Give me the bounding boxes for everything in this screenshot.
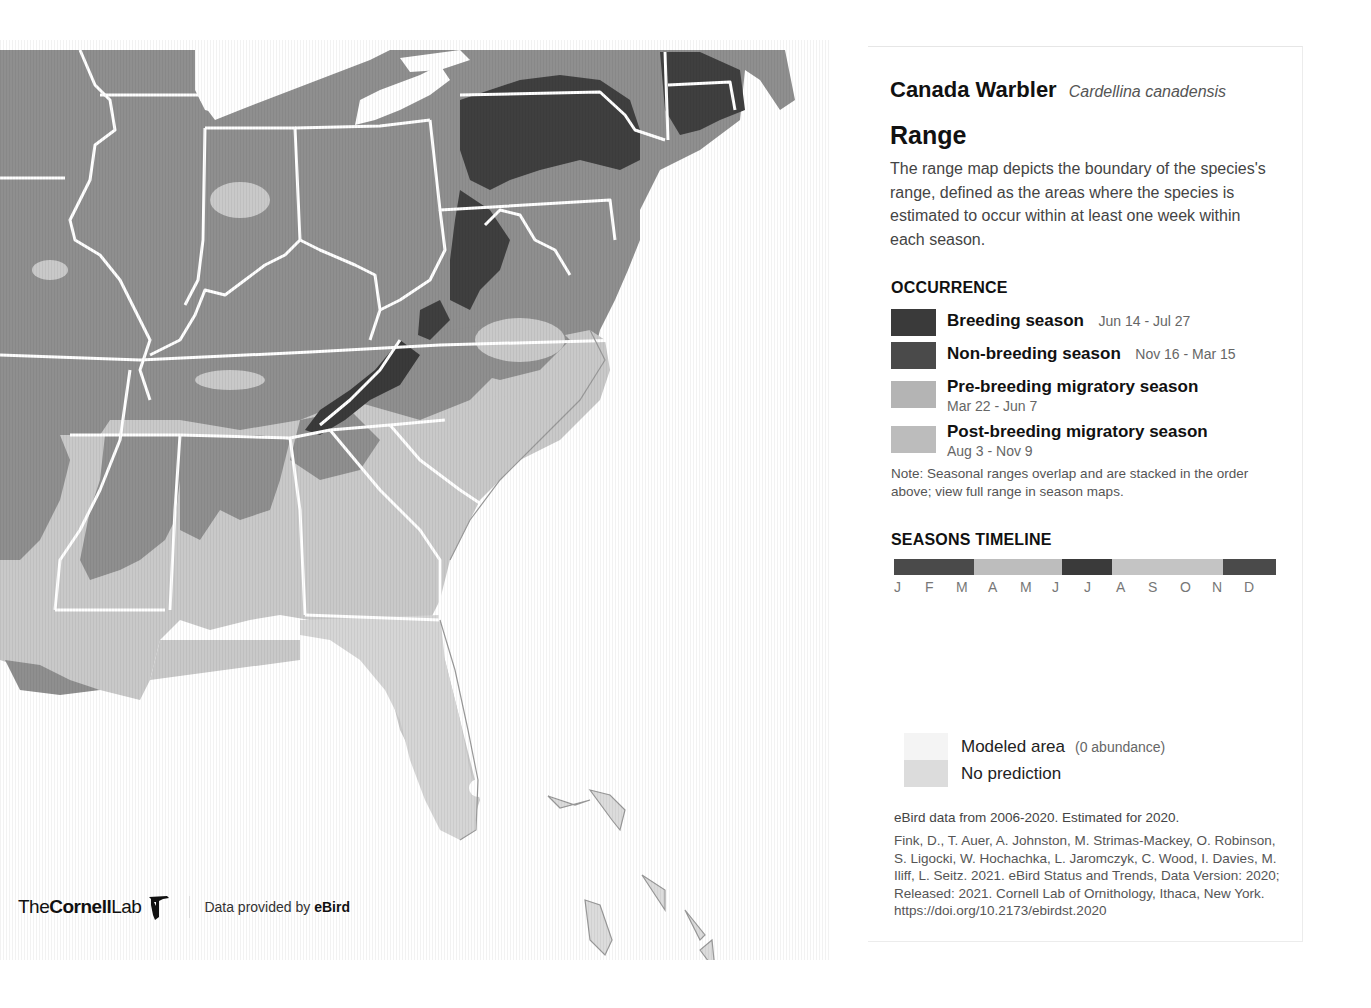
- legend-item-breeding: Breeding season Jun 14 - Jul 27: [891, 309, 1190, 336]
- occurrence-note: Note: Seasonal ranges overlap and are st…: [891, 465, 1291, 500]
- range-title: Range: [890, 121, 966, 150]
- timeline-segment-breeding: [1062, 559, 1112, 575]
- citation: Fink, D., T. Auer, A. Johnston, M. Strim…: [894, 832, 1282, 920]
- species-scientific-name: Cardellina canadensis: [1069, 83, 1226, 101]
- cornell-lab-logo[interactable]: TheCornellLab: [18, 893, 171, 921]
- non-breeding-swatch: [891, 342, 936, 369]
- legend-item-no-prediction: No prediction: [904, 760, 1061, 787]
- data-provider[interactable]: Data provided by eBird: [204, 899, 350, 915]
- legend-item-non-breeding: Non-breeding season Nov 16 - Mar 15: [891, 342, 1236, 369]
- legend-panel: Canada Warbler Cardellina canadensis Ran…: [868, 46, 1303, 942]
- legend-item-modeled-area: Modeled area (0 abundance): [904, 733, 1165, 760]
- seasons-timeline: [894, 559, 1276, 575]
- timeline-segment-non-breeding: [894, 559, 974, 575]
- no-prediction-swatch: [904, 760, 948, 787]
- ebird-brand: eBird: [314, 899, 350, 915]
- timeline-months: J F M A M J J A S O N D: [894, 579, 1294, 595]
- legend-item-pre-breeding: Pre-breeding migratory season Mar 22 - J…: [891, 377, 1198, 414]
- species-header: Canada Warbler Cardellina canadensis: [890, 77, 1226, 103]
- footer-logos: TheCornellLab Data provided by eBird: [18, 893, 350, 921]
- timeline-segment-non-breeding-end: [1223, 559, 1276, 575]
- post-breeding-swatch: [891, 426, 936, 453]
- cornell-bird-icon: [145, 893, 171, 921]
- breeding-swatch: [891, 309, 936, 336]
- occurrence-heading: OCCURRENCE: [891, 279, 1008, 297]
- timeline-segment-post-breeding: [1112, 559, 1223, 575]
- pre-breeding-swatch: [891, 381, 936, 408]
- modeled-area-swatch: [904, 733, 948, 760]
- range-description: The range map depicts the boundary of th…: [890, 157, 1270, 251]
- species-common-name: Canada Warbler: [890, 77, 1057, 103]
- legend-item-post-breeding: Post-breeding migratory season Aug 3 - N…: [891, 422, 1208, 459]
- timeline-heading: SEASONS TIMELINE: [891, 531, 1052, 549]
- footer-divider: [189, 896, 190, 918]
- range-map[interactable]: [0, 40, 830, 960]
- data-note: eBird data from 2006-2020. Estimated for…: [894, 810, 1179, 825]
- timeline-segment-pre-breeding: [974, 559, 1062, 575]
